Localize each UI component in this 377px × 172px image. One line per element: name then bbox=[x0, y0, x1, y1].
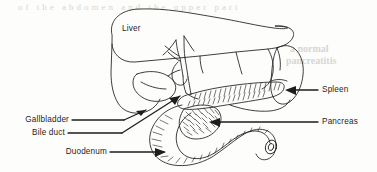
pancreas-organ bbox=[178, 82, 290, 139]
anatomy-line-art bbox=[0, 0, 377, 172]
gallbladder-organ bbox=[133, 70, 180, 101]
leader-bile-duct-angle bbox=[122, 96, 180, 133]
label-pancreas: Pancreas bbox=[322, 118, 358, 126]
arrowhead-duodenum bbox=[155, 148, 166, 157]
label-bile-duct: Bile duct bbox=[0, 129, 65, 137]
hepatic-vessels bbox=[163, 36, 198, 99]
label-spleen: Spleen bbox=[322, 86, 348, 94]
duodenum-organ bbox=[150, 105, 279, 166]
label-liver: Liver bbox=[122, 25, 141, 33]
arrowhead-spleen bbox=[285, 86, 296, 95]
label-gallbladder: Gallbladder bbox=[0, 116, 69, 124]
anatomy-figure: of the abdomen and the upper part a norm… bbox=[0, 0, 377, 172]
label-duodenum: Duodenum bbox=[0, 148, 107, 156]
